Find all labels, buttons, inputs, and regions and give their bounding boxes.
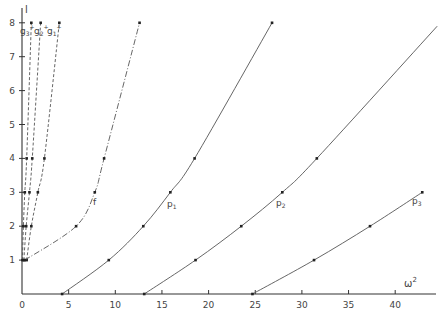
data-point — [316, 157, 319, 160]
data-point — [23, 259, 26, 262]
data-point — [240, 225, 243, 228]
x-tick-label: 5 — [66, 300, 72, 310]
y-tick-label: 3 — [9, 187, 15, 197]
data-point — [61, 293, 64, 296]
y-tick-label: 2 — [9, 221, 15, 231]
data-point — [30, 225, 33, 228]
x-tick-label: 25 — [250, 300, 261, 310]
x-ticks: 0510152025303540 — [19, 290, 401, 310]
x-tick-label: 0 — [19, 300, 25, 310]
data-point — [25, 225, 28, 228]
data-point — [22, 225, 25, 228]
data-point — [193, 157, 196, 160]
data-point — [169, 191, 172, 194]
data-point — [93, 191, 96, 194]
x-tick-label: 30 — [296, 300, 308, 310]
curves — [21, 22, 437, 296]
x-tick-label: 40 — [389, 300, 401, 310]
data-point — [37, 191, 40, 194]
x-tick-label: 35 — [343, 300, 354, 310]
x-tick-label: 15 — [156, 300, 167, 310]
y-tick-label: 6 — [9, 86, 15, 96]
label-p2: p2 — [276, 198, 286, 209]
data-point — [142, 225, 145, 228]
label-g3: g3+ — [20, 23, 35, 37]
label-f: f — [93, 197, 97, 207]
data-point — [43, 157, 46, 160]
data-point — [369, 225, 372, 228]
data-point — [75, 225, 78, 228]
data-point — [421, 191, 424, 194]
curve-g2+ — [24, 23, 41, 260]
x-axis-label: ω2 — [404, 276, 417, 289]
data-point — [281, 191, 284, 194]
y-tick-label: 1 — [9, 255, 15, 265]
data-point — [138, 22, 141, 25]
label-p3: p3 — [412, 196, 422, 207]
data-point — [107, 259, 110, 262]
data-point — [194, 259, 197, 262]
data-point — [23, 191, 26, 194]
axes — [22, 8, 436, 294]
curve-g1+ — [27, 23, 60, 260]
y-tick-label: 7 — [9, 52, 15, 62]
y-ticks: 12345678 — [9, 18, 25, 265]
label-g1: g1+ — [47, 23, 62, 37]
y-tick-label: 8 — [9, 18, 15, 28]
label-p1: p1 — [167, 199, 177, 210]
data-point — [31, 157, 34, 160]
data-point — [271, 22, 274, 25]
y-axis-label: l — [25, 4, 28, 15]
data-point — [103, 157, 106, 160]
dispersion-chart: 0510152025303540 12345678 l ω2 g3+ g2+ g… — [0, 0, 439, 316]
curve-p2 — [144, 26, 437, 294]
data-point — [28, 191, 31, 194]
curve-p1 — [62, 23, 272, 294]
data-point — [39, 22, 42, 25]
x-tick-label: 20 — [203, 300, 215, 310]
y-tick-label: 4 — [9, 153, 15, 163]
y-tick-label: 5 — [9, 120, 15, 130]
data-point — [25, 157, 28, 160]
data-point — [313, 259, 316, 262]
curve-g3+ — [22, 23, 31, 260]
curve-f — [25, 23, 140, 260]
data-point — [143, 293, 146, 296]
data-point — [251, 293, 254, 296]
x-tick-label: 10 — [110, 300, 122, 310]
